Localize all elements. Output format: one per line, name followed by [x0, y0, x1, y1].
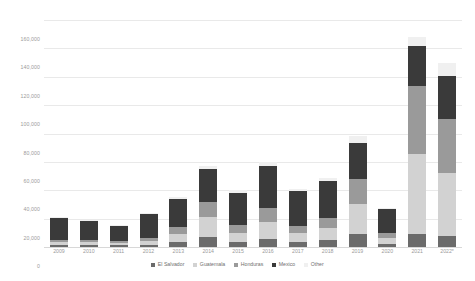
bar-segment-mexico[interactable] [408, 46, 426, 86]
bar-segment-honduras[interactable] [438, 119, 456, 173]
bar-2022[interactable] [438, 63, 456, 247]
bar-2009[interactable] [50, 217, 68, 247]
bar-segment-honduras[interactable] [229, 225, 247, 232]
bar-segment-mexico[interactable] [319, 181, 337, 217]
bar-segment-mexico[interactable] [50, 218, 68, 240]
bar-segment-guatemala[interactable] [289, 233, 307, 242]
bar-segment-guatemala[interactable] [408, 154, 426, 233]
bar-series-container [44, 20, 462, 247]
stacked-bar-chart: 020,00040,00060,00080,000100,000120,0001… [0, 0, 475, 281]
bar-segment-el-salvador[interactable] [319, 240, 337, 247]
bar-segment-mexico[interactable] [438, 76, 456, 119]
bar-segment-mexico[interactable] [169, 199, 187, 227]
legend-label: Other [311, 262, 324, 267]
bar-segment-mexico[interactable] [80, 221, 98, 240]
bar-2012[interactable] [140, 213, 158, 247]
gridline [44, 247, 462, 248]
bar-segment-guatemala[interactable] [438, 173, 456, 237]
y-axis-tick-label: 60,000 [0, 179, 40, 184]
legend-item-guatemala[interactable]: Guatemala [193, 262, 225, 267]
bar-segment-guatemala[interactable] [259, 222, 277, 238]
bar-segment-guatemala[interactable] [349, 204, 367, 234]
bar-segment-honduras[interactable] [289, 226, 307, 233]
bar-segment-guatemala[interactable] [169, 234, 187, 243]
bar-segment-el-salvador[interactable] [140, 245, 158, 247]
bar-segment-honduras[interactable] [349, 179, 367, 205]
bar-2018[interactable] [319, 178, 337, 247]
bar-segment-mexico[interactable] [110, 226, 128, 242]
bar-2015[interactable] [229, 190, 247, 247]
legend-item-mexico[interactable]: Mexico [272, 262, 295, 267]
legend-label: Guatemala [200, 262, 225, 267]
bar-segment-guatemala[interactable] [199, 217, 217, 237]
legend-swatch-icon [272, 263, 276, 267]
y-axis-tick-label: 80,000 [0, 151, 40, 156]
y-axis-tick-label: 20,000 [0, 236, 40, 241]
bar-segment-el-salvador[interactable] [289, 242, 307, 247]
bar-segment-mexico[interactable] [140, 214, 158, 237]
bar-segment-el-salvador[interactable] [110, 245, 128, 247]
legend-item-honduras[interactable]: Honduras [234, 262, 263, 267]
bar-segment-guatemala[interactable] [319, 228, 337, 241]
x-axis-tick-label: 2022* [427, 249, 467, 254]
bar-segment-other[interactable] [438, 63, 456, 76]
bar-2014[interactable] [199, 166, 217, 247]
y-axis-tick-label: 160,000 [0, 37, 40, 42]
bar-segment-other[interactable] [349, 136, 367, 144]
bar-segment-mexico[interactable] [349, 143, 367, 178]
bar-segment-honduras[interactable] [319, 218, 337, 228]
bar-2013[interactable] [169, 197, 187, 247]
bar-2017[interactable] [289, 189, 307, 247]
bar-2019[interactable] [349, 136, 367, 247]
bar-2010[interactable] [80, 220, 98, 247]
plot-area [44, 20, 462, 247]
legend-swatch-icon [304, 263, 308, 267]
bar-segment-mexico[interactable] [199, 169, 217, 202]
bar-segment-mexico[interactable] [229, 193, 247, 226]
bar-segment-honduras[interactable] [259, 208, 277, 222]
bar-segment-el-salvador[interactable] [199, 237, 217, 247]
bar-segment-el-salvador[interactable] [349, 234, 367, 247]
legend-label: Honduras [241, 262, 264, 267]
bar-segment-el-salvador[interactable] [229, 242, 247, 247]
legend-swatch-icon [151, 263, 155, 267]
bar-2021[interactable] [408, 37, 426, 247]
bar-2011[interactable] [110, 225, 128, 247]
y-axis-tick-label: 100,000 [0, 123, 40, 128]
bar-segment-el-salvador[interactable] [50, 245, 68, 247]
bar-segment-honduras[interactable] [199, 202, 217, 218]
bar-segment-el-salvador[interactable] [408, 234, 426, 247]
chart-legend: El SalvadorGuatemalaHondurasMexicoOther [0, 262, 475, 267]
legend-label: Mexico [279, 262, 295, 267]
bar-segment-el-salvador[interactable] [169, 242, 187, 247]
bar-segment-mexico[interactable] [259, 166, 277, 208]
bar-segment-el-salvador[interactable] [259, 239, 277, 248]
legend-item-el-salvador[interactable]: El Salvador [151, 262, 184, 267]
bar-segment-guatemala[interactable] [229, 233, 247, 242]
bar-2020[interactable] [378, 208, 396, 247]
legend-swatch-icon [193, 263, 197, 267]
legend-label: El Salvador [158, 262, 185, 267]
bar-segment-honduras[interactable] [169, 227, 187, 234]
bar-segment-el-salvador[interactable] [378, 244, 396, 247]
legend-item-other[interactable]: Other [304, 262, 323, 267]
x-axis-labels: 2009201020112012201320142015201620172018… [44, 249, 462, 261]
bar-2016[interactable] [259, 162, 277, 247]
y-axis: 020,00040,00060,00080,000100,000120,0001… [0, 20, 40, 247]
bar-segment-mexico[interactable] [289, 191, 307, 226]
y-axis-tick-label: 120,000 [0, 94, 40, 99]
legend-swatch-icon [234, 263, 238, 267]
bar-segment-honduras[interactable] [408, 86, 426, 154]
bar-segment-mexico[interactable] [378, 209, 396, 232]
y-axis-tick-label: 40,000 [0, 208, 40, 213]
bar-segment-other[interactable] [408, 37, 426, 46]
y-axis-tick-label: 140,000 [0, 66, 40, 71]
bar-segment-el-salvador[interactable] [438, 236, 456, 247]
bar-segment-el-salvador[interactable] [80, 245, 98, 247]
